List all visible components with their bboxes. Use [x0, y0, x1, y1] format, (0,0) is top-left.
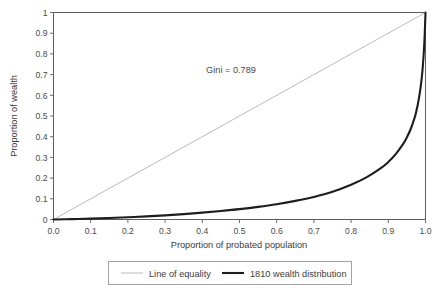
- x-tick-label-1: 0.1: [85, 226, 97, 236]
- y-tick-label-0: 0: [43, 215, 48, 225]
- y-axis-title: Proportion of wealth: [9, 75, 19, 157]
- x-tick-label-2: 0.2: [122, 226, 134, 236]
- y-tick-label-4: 0.4: [36, 132, 48, 142]
- y-tick-label-3: 0.3: [36, 153, 48, 163]
- x-tick-label-10: 1.0: [420, 226, 432, 236]
- lorenz-curve-figure: 0.00.10.20.30.40.50.60.70.80.91.0 00.10.…: [0, 0, 444, 291]
- y-tick-label-1: 0.1: [36, 194, 48, 204]
- legend-label-wealth-distribution: 1810 wealth distribution: [250, 269, 347, 279]
- y-tick-label-10: 1: [43, 8, 48, 18]
- x-tick-label-4: 0.4: [196, 226, 208, 236]
- x-tick-label-8: 0.8: [345, 226, 357, 236]
- y-tick-label-7: 0.7: [36, 70, 48, 80]
- y-tick-label-9: 0.9: [36, 28, 48, 38]
- y-tick-label-8: 0.8: [36, 49, 48, 59]
- gini-annotation: Gini = 0.789: [206, 65, 256, 75]
- chart-canvas: 0.00.10.20.30.40.50.60.70.80.91.0 00.10.…: [0, 0, 444, 291]
- y-tick-label-2: 0.2: [36, 173, 48, 183]
- x-tick-label-7: 0.7: [308, 226, 320, 236]
- x-tick-label-0: 0.0: [48, 226, 60, 236]
- x-tick-label-6: 0.6: [271, 226, 283, 236]
- x-axis-title: Proportion of probated population: [171, 240, 307, 250]
- x-tick-label-9: 0.9: [382, 226, 394, 236]
- x-tick-label-5: 0.5: [234, 226, 246, 236]
- chart-legend: Line of equality 1810 wealth distributio…: [109, 262, 352, 285]
- y-tick-label-5: 0.5: [36, 111, 48, 121]
- legend-label-line-of-equality: Line of equality: [149, 269, 211, 279]
- x-tick-label-3: 0.3: [159, 226, 171, 236]
- y-tick-label-6: 0.6: [36, 91, 48, 101]
